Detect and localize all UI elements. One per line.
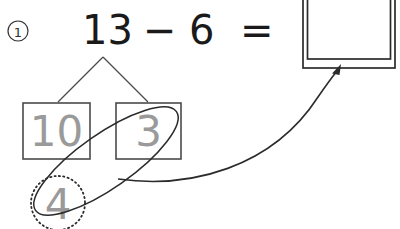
equation-operator: − <box>143 7 177 53</box>
number-bond-part-box-2[interactable]: 3 <box>116 103 181 159</box>
worksheet-canvas: 1 13 − 6 = 10 3 <box>0 0 400 229</box>
equation-subtrahend: 6 <box>189 7 214 53</box>
equation-minuend: 13 <box>82 7 133 53</box>
bond-branch-right <box>103 57 148 102</box>
part-box-1-label: 10 <box>30 107 83 156</box>
number-bond-branches <box>58 57 148 102</box>
equation-equals-sign: = <box>240 7 274 53</box>
answer-box-inner-border <box>308 0 391 59</box>
answer-box[interactable] <box>303 0 395 68</box>
remainder-label: 4 <box>45 180 72 229</box>
answer-arrow-head <box>332 64 341 75</box>
number-bond-part-box-1[interactable]: 10 <box>23 103 90 159</box>
equation-row: 13 − 6 = <box>82 7 274 53</box>
problem-number-marker: 1 <box>8 21 28 41</box>
bond-branch-left <box>58 57 103 102</box>
answer-box-outer-border <box>303 0 395 68</box>
problem-number-label: 1 <box>14 25 22 40</box>
part-box-2-label: 3 <box>135 107 162 156</box>
worksheet-page: 1 13 − 6 = 10 3 <box>0 0 400 229</box>
remainder-circle[interactable]: 4 <box>31 176 85 229</box>
